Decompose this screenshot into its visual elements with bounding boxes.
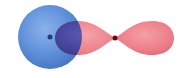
p-nucleus-dot — [113, 36, 118, 41]
p-orbital-right-lobe — [115, 21, 174, 55]
s-nucleus-dot — [48, 35, 53, 40]
orbital-overlap-diagram — [0, 0, 188, 78]
orbital-diagram-svg — [0, 0, 188, 78]
